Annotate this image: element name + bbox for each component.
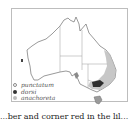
legend-label: anachoreta — [21, 95, 55, 102]
west-coast-marker — [21, 59, 23, 62]
legend: punctatum dorsi anachoreta — [13, 82, 55, 102]
tasmania-outline — [94, 96, 102, 104]
anachoreta-dot-icon — [13, 96, 17, 100]
australia-distribution-map — [0, 0, 134, 121]
punctatum-ring-icon — [13, 83, 17, 87]
dorsi-dot-icon — [13, 90, 17, 94]
caption-text: ...ber and corner red in the lil... — [0, 112, 134, 121]
legend-item-anachoreta: anachoreta — [13, 95, 55, 102]
